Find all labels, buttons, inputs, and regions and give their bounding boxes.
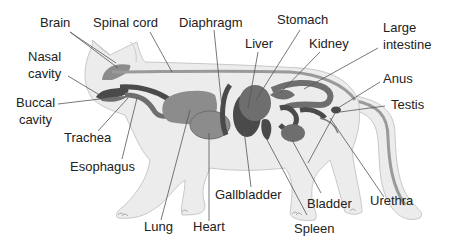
label-stomach: Stomach [277,13,328,27]
label-large-intestine-line2: intestine [383,38,431,52]
label-diaphragm: Diaphragm [179,16,243,30]
label-large-intestine-line1: Large [383,21,431,35]
label-spinal-cord: Spinal cord [93,16,158,30]
label-heart: Heart [193,220,225,234]
label-esophagus: Esophagus [70,160,135,174]
testis [331,107,341,114]
label-nasal-cavity-line2: cavity [28,67,61,81]
label-buccal-cavity: Buccal cavity [16,96,55,127]
label-buccal-cavity-line1: Buccal [16,96,55,110]
cat-anatomy-diagram: Brain Spinal cord Diaphragm Stomach Live… [0,0,452,251]
label-urethra: Urethra [370,194,413,208]
label-kidney: Kidney [309,37,349,51]
gallbladder [236,119,248,131]
label-nasal-cavity-line1: Nasal [28,50,61,64]
label-large-intestine: Large intestine [383,21,431,52]
label-brain: Brain [40,16,70,30]
label-trachea: Trachea [64,131,111,145]
label-bladder: Bladder [307,197,352,211]
label-testis: Testis [391,98,424,112]
label-buccal-cavity-line2: cavity [16,113,55,127]
stomach [239,85,271,121]
label-lung: Lung [144,220,173,234]
bladder [281,124,305,142]
label-spleen: Spleen [294,222,334,236]
label-anus: Anus [383,72,413,86]
label-nasal-cavity: Nasal cavity [28,50,61,81]
label-gallbladder: Gallbladder [215,188,282,202]
label-liver: Liver [245,37,273,51]
